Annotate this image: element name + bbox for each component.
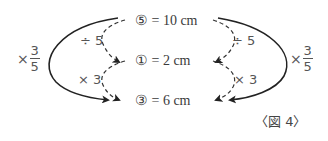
numerator: 3 [31, 44, 39, 57]
times-sign: × [290, 51, 302, 67]
ratio-diagram: ⑤ = 10 cm ① = 2 cm ③ = 6 cm ÷ 5 × 3 × 3 … [0, 0, 328, 141]
right-combined-fraction: × 3 5 [290, 44, 313, 73]
times-sign: × [17, 51, 29, 67]
left-dashed-arrow-1 [102, 20, 125, 62]
left-dashed-arrow-2 [102, 61, 125, 100]
left-divide-label: ÷ 5 [80, 34, 103, 48]
left-multiply-label: × 3 [78, 73, 101, 87]
figure-caption: 〈図 4〉 [255, 111, 306, 130]
right-multiply-label: × 3 [234, 73, 257, 87]
left-solid-arrow [49, 18, 118, 100]
right-solid-arrow [218, 18, 287, 100]
equation-row-1: ⑤ = 10 cm [135, 13, 198, 29]
denominator: 5 [31, 60, 39, 73]
right-divide-label: ÷ 5 [232, 34, 255, 48]
numerator: 3 [304, 44, 312, 57]
denominator: 5 [304, 60, 312, 73]
right-dashed-arrow-2 [213, 61, 235, 100]
left-combined-fraction: × 3 5 [17, 44, 40, 73]
equation-row-2: ① = 2 cm [135, 53, 191, 69]
equation-row-3: ③ = 6 cm [135, 93, 191, 109]
